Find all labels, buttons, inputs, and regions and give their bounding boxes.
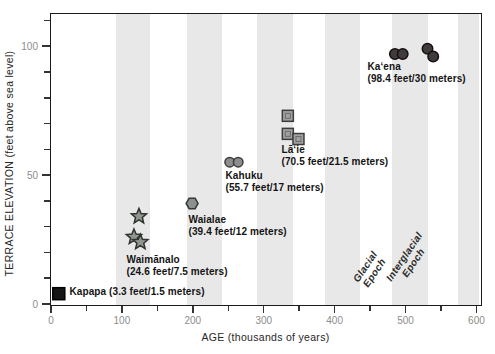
x-tick-label: 200 — [168, 315, 218, 326]
y-tick — [42, 45, 50, 47]
y-tick — [44, 200, 50, 202]
x-tick-label: 400 — [310, 315, 360, 326]
x-tick-label: 0 — [26, 315, 76, 326]
y-tick — [44, 123, 50, 125]
y-tick — [44, 97, 50, 99]
x-tick-label: 300 — [239, 315, 289, 326]
y-tick — [44, 277, 50, 279]
x-tick-label: 600 — [451, 315, 495, 326]
y-tick — [42, 303, 50, 305]
x-tick — [192, 306, 194, 314]
y-tick — [44, 252, 50, 254]
x-tick-label: 500 — [381, 315, 431, 326]
x-tick — [263, 306, 265, 314]
x-tick — [369, 306, 371, 312]
y-tick — [44, 226, 50, 228]
y-tick — [42, 174, 50, 176]
terrace-elevation-age-chart: GlacialEpochInterglacialEpoch Kapapa (3.… — [0, 0, 495, 354]
x-tick — [298, 306, 300, 312]
x-tick — [476, 306, 478, 314]
x-tick — [50, 306, 52, 314]
y-tick — [44, 71, 50, 73]
x-tick — [405, 306, 407, 314]
y-axis-title: TERRACE ELEVATION (feet above sea level) — [3, 19, 16, 309]
x-tick-label: 100 — [97, 315, 147, 326]
axis-ticks-layer: 0100200300400500600050100 — [0, 0, 495, 354]
y-tick — [44, 149, 50, 151]
x-tick — [121, 306, 123, 314]
x-tick — [440, 306, 442, 312]
x-tick — [157, 306, 159, 312]
y-tick — [44, 20, 50, 22]
x-tick — [228, 306, 230, 312]
x-axis-title: AGE (thousands of years) — [51, 331, 480, 343]
x-tick — [86, 306, 88, 312]
x-tick — [334, 306, 336, 314]
